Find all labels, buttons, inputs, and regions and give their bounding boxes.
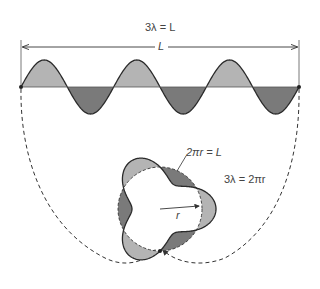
circumference-equation: 2πr = L bbox=[186, 146, 222, 158]
linear-standing-wave bbox=[21, 60, 299, 114]
wavelength-circle-equation: 3λ = 2πr bbox=[224, 173, 266, 185]
circumference-leader bbox=[177, 156, 186, 171]
circular-standing-wave bbox=[118, 158, 216, 260]
length-label: L bbox=[158, 40, 164, 52]
top-equation: 3λ = L bbox=[145, 21, 175, 33]
radius-label: r bbox=[176, 209, 180, 221]
